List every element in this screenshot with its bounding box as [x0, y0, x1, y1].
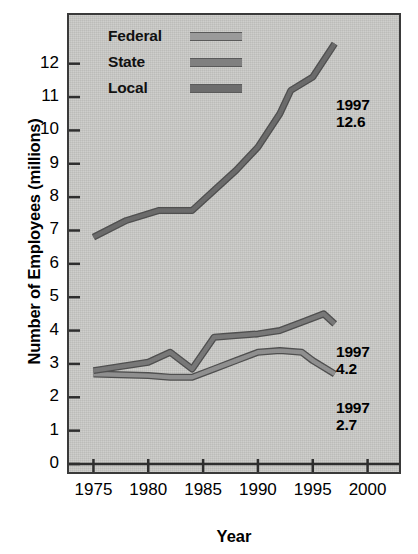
- x-tick-label: 1995: [283, 480, 343, 500]
- legend: Federal State Local: [108, 25, 260, 103]
- legend-swatch-federal: [190, 32, 242, 41]
- y-tick-label: 10: [25, 119, 59, 139]
- annotation-state-year: 1997: [336, 343, 370, 360]
- legend-item-federal: Federal: [108, 25, 260, 47]
- annotation-local-endpoint: 1997 12.6: [336, 96, 370, 130]
- legend-swatch-state: [190, 58, 242, 67]
- y-tick-label: 6: [25, 253, 59, 273]
- legend-item-state: State: [108, 51, 260, 73]
- legend-label-local: Local: [108, 79, 188, 97]
- x-tick-label: 1990: [228, 480, 288, 500]
- y-tick-label: 5: [25, 286, 59, 306]
- y-tick-label: 9: [25, 153, 59, 173]
- chart-figure: Number of Employees (millions) 012345678…: [0, 0, 418, 554]
- legend-label-state: State: [108, 53, 188, 71]
- y-tick-label: 1: [25, 420, 59, 440]
- annotation-local-year: 1997: [336, 96, 370, 113]
- y-tick-label: 3: [25, 353, 59, 373]
- x-tick-label: 1975: [63, 480, 123, 500]
- x-tick-label: 2000: [338, 480, 398, 500]
- legend-label-federal: Federal: [108, 27, 188, 45]
- x-tick-label: 1980: [118, 480, 178, 500]
- annotation-local-value: 12.6: [336, 113, 370, 130]
- y-tick-label: 12: [25, 53, 59, 73]
- y-tick-label: 4: [25, 320, 59, 340]
- y-tick-label: 11: [25, 86, 59, 106]
- legend-item-local: Local: [108, 77, 260, 99]
- annotation-federal-year: 1997: [336, 399, 370, 416]
- y-tick-label: 2: [25, 386, 59, 406]
- annotation-federal-value: 2.7: [336, 416, 370, 433]
- annotation-state-value: 4.2: [336, 360, 370, 377]
- annotation-state-endpoint: 1997 4.2: [336, 343, 370, 377]
- annotation-federal-endpoint: 1997 2.7: [336, 399, 370, 433]
- y-tick-label: 8: [25, 186, 59, 206]
- y-tick-label: 7: [25, 219, 59, 239]
- x-axis-title: Year: [67, 527, 401, 546]
- y-tick-label: 0: [25, 453, 59, 473]
- x-tick-label: 1985: [173, 480, 233, 500]
- legend-swatch-local: [190, 84, 242, 93]
